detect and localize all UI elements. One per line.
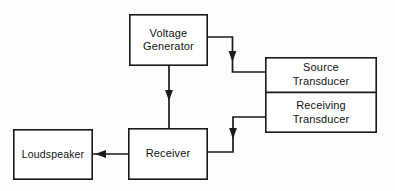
block-loudspeaker[interactable] [14,130,92,179]
arrowhead-down-icon [229,128,237,139]
block-receiver[interactable] [129,129,207,179]
arrowhead-down-icon [165,90,173,101]
block-transducer-group[interactable] [266,58,376,132]
connector-voltage-generator-to-source-transducer [207,37,266,72]
block-voltage-generator[interactable] [130,15,207,65]
connector-receiver-to-loudspeaker [92,150,129,158]
arrowhead-down-icon [229,51,237,62]
block-diagram: Voltage Generator Source Transducer Rece… [0,0,395,191]
diagram-canvas [0,0,395,191]
arrowhead-left-icon [95,150,106,158]
connector-voltage-generator-to-receiver [165,65,173,129]
connector-receiving-transducer-to-receiver [207,117,266,152]
